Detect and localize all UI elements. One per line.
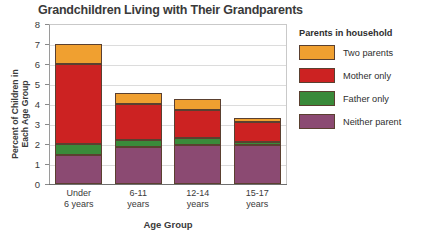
legend-item[interactable]: Mother only <box>299 68 421 83</box>
x-tick-line2: 6 years <box>64 199 94 209</box>
chart-title: Grandchildren Living with Their Grandpar… <box>38 3 288 17</box>
legend-swatch <box>299 91 335 106</box>
bar-segment <box>115 147 162 184</box>
bar-series-group <box>49 24 287 184</box>
stacked-bar <box>115 24 162 184</box>
y-axis-label-line2: Each Age Group <box>20 81 30 148</box>
bar-segment <box>174 99 221 110</box>
bar-segment <box>55 155 102 184</box>
x-axis-tick-label: Under6 years <box>49 188 109 209</box>
x-tick-line1: 6-11 <box>130 188 147 198</box>
bar-segment <box>174 110 221 138</box>
stacked-bar <box>234 24 281 184</box>
bar-segment <box>174 145 221 184</box>
legend-label: Mother only <box>343 71 391 81</box>
legend-label: Two parents <box>343 48 393 58</box>
bar-segment <box>234 122 281 142</box>
bar-segment <box>115 93 162 104</box>
x-tick-line2: years <box>127 199 149 209</box>
bar-segment <box>115 104 162 140</box>
legend-item[interactable]: Neither parent <box>299 114 421 129</box>
x-axis-tick-label: 15-17years <box>228 188 288 209</box>
stacked-bar <box>55 24 102 184</box>
legend-swatch <box>299 114 335 129</box>
legend-item[interactable]: Two parents <box>299 45 421 60</box>
bar-segment <box>234 118 281 122</box>
bar-segment <box>174 138 221 145</box>
chart-container: Grandchildren Living with Their Grandpar… <box>0 0 423 241</box>
bar-segment <box>115 140 162 147</box>
x-axis-tick-label: 6-11years <box>109 188 169 209</box>
legend-label: Father only <box>343 94 389 104</box>
x-axis-label: Age Group <box>49 219 287 230</box>
x-tick-line1: Under <box>66 188 91 198</box>
legend-items: Two parentsMother onlyFather onlyNeither… <box>299 45 421 129</box>
y-axis-label: Percent of Children in Each Age Group <box>10 44 30 184</box>
x-tick-line2: years <box>246 199 268 209</box>
bar-segment <box>55 64 102 144</box>
stacked-bar <box>174 24 221 184</box>
x-axis-tick-label: 12-14years <box>168 188 228 209</box>
y-axis-tick-label: 8 <box>10 19 40 30</box>
bar-segment <box>55 144 102 155</box>
y-axis-label-line1: Percent of Children in <box>10 69 20 158</box>
legend-label: Neither parent <box>343 117 401 127</box>
bar-segment <box>234 145 281 184</box>
x-axis-line <box>49 184 287 185</box>
x-tick-line2: years <box>187 199 209 209</box>
legend-swatch <box>299 45 335 60</box>
x-tick-line1: 15-17 <box>246 188 269 198</box>
bar-segment <box>55 44 102 64</box>
legend-item[interactable]: Father only <box>299 91 421 106</box>
legend-title: Parents in household <box>299 28 421 38</box>
legend: Parents in household Two parentsMother o… <box>299 28 421 137</box>
x-tick-line1: 12-14 <box>186 188 209 198</box>
legend-swatch <box>299 68 335 83</box>
bar-segment <box>234 142 281 145</box>
